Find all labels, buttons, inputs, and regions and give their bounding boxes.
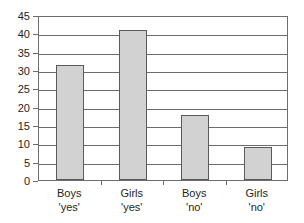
category-label-line: 'no' — [163, 200, 226, 214]
x-axis-tick-mark — [226, 181, 227, 185]
bar — [56, 65, 84, 181]
y-axis-tick-label: 35 — [6, 48, 30, 58]
x-axis-category-label: Boys'no' — [163, 186, 226, 214]
bar — [181, 115, 209, 180]
y-axis-tick-label: 30 — [6, 66, 30, 76]
y-axis-tick-label: 20 — [6, 103, 30, 113]
y-axis-tick-label: 15 — [6, 121, 30, 131]
y-axis-tick-label: 10 — [6, 139, 30, 149]
x-axis-category-label: Boys'yes' — [38, 186, 101, 214]
x-axis-tick-mark — [101, 181, 102, 185]
gridline — [39, 54, 287, 55]
gridline — [39, 35, 287, 36]
y-axis-tick-mark — [33, 181, 38, 182]
y-axis-tick-label: 25 — [6, 84, 30, 94]
y-axis-tick-label: 45 — [6, 11, 30, 21]
category-label-line: Girls — [226, 186, 289, 200]
category-label-line: Boys — [38, 186, 101, 200]
category-label-line: Girls — [101, 186, 164, 200]
x-axis-tick-mark — [163, 181, 164, 185]
x-axis-category-labels: Boys'yes'Girls'yes'Boys'no'Girls'no' — [38, 186, 288, 223]
x-axis-category-label: Girls'no' — [226, 186, 289, 214]
category-label-line: 'yes' — [101, 200, 164, 214]
y-axis-tick-label: 0 — [6, 176, 30, 186]
x-axis-category-label: Girls'yes' — [101, 186, 164, 214]
category-label-line: Boys — [163, 186, 226, 200]
category-label-line: 'no' — [226, 200, 289, 214]
bar-chart: 454035302520151050 Boys'yes'Girls'yes'Bo… — [0, 0, 304, 223]
category-label-line: 'yes' — [38, 200, 101, 214]
y-axis-tick-label: 40 — [6, 29, 30, 39]
plot-area — [38, 16, 288, 181]
bar — [119, 30, 147, 180]
y-axis-tick-label: 5 — [6, 158, 30, 168]
bar — [244, 147, 272, 180]
y-axis-tick-labels: 454035302520151050 — [6, 0, 30, 223]
